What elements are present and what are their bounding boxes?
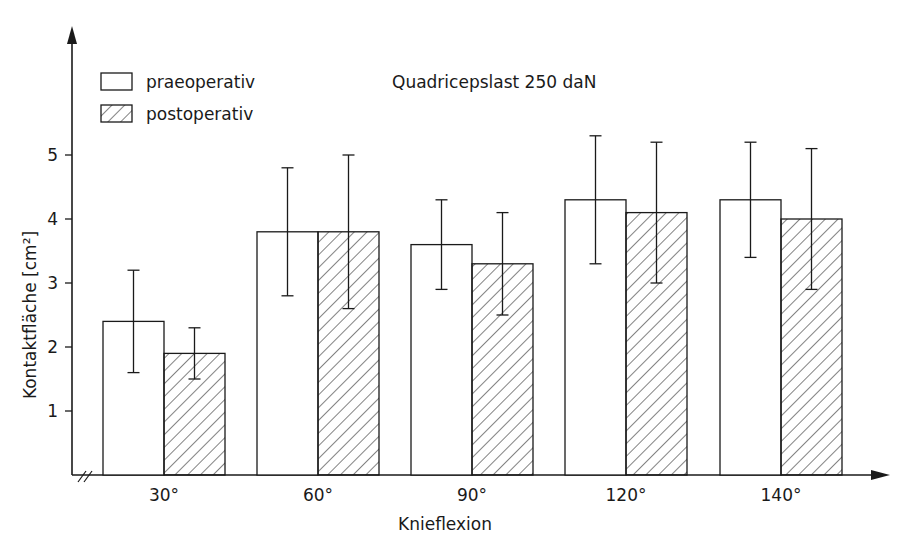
y-tick-label: 1 xyxy=(47,401,58,421)
y-tick-label: 5 xyxy=(47,145,58,165)
y-axis: 12345 Kontaktfläche [cm²] xyxy=(20,26,77,475)
legend-swatch-praeoperativ xyxy=(101,73,132,90)
y-tick-label: 3 xyxy=(47,273,58,293)
legend-label-praeoperativ: praeoperativ xyxy=(146,72,255,92)
y-tick-label: 2 xyxy=(47,337,58,357)
x-axis-label: Knieflexion xyxy=(398,514,492,534)
chart-title: Quadricepslast 250 daN xyxy=(392,72,596,92)
bar-chart: 12345 Kontaktfläche [cm²] 30°60°90°120°1… xyxy=(0,0,914,548)
x-tick-label: 140° xyxy=(761,485,802,505)
y-axis-arrow-icon xyxy=(67,26,77,44)
x-tick-label: 30° xyxy=(149,485,179,505)
y-axis-label: Kontaktfläche [cm²] xyxy=(20,231,40,399)
legend: praeoperativ postoperativ xyxy=(101,72,255,124)
bars xyxy=(103,136,842,475)
x-tick-label: 120° xyxy=(606,485,647,505)
x-axis-arrow-icon xyxy=(871,470,890,480)
legend-swatch-postoperativ xyxy=(101,105,132,122)
x-axis: 30°60°90°120°140° Knieflexion xyxy=(72,470,890,534)
axis-break-icon xyxy=(78,471,92,482)
x-tick-label: 60° xyxy=(303,485,333,505)
y-tick-label: 4 xyxy=(47,209,58,229)
legend-label-postoperativ: postoperativ xyxy=(146,104,253,124)
x-tick-label: 90° xyxy=(457,485,487,505)
